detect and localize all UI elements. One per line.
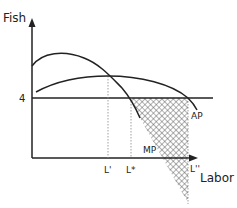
ap-label: AP (191, 111, 203, 121)
x-axis-arrow-icon (189, 155, 198, 162)
l-prime-label: L' (104, 165, 112, 175)
chart-canvas: Fish Labor 4 L' L* L'' MP AP (0, 0, 237, 208)
mp-label: MP (143, 145, 157, 155)
y-axis-label: Fish (3, 11, 26, 25)
l-double-prime-label: L'' (190, 164, 200, 174)
l-star-label: L* (126, 165, 136, 175)
y-axis-arrow-icon (29, 18, 36, 27)
deadweight-shaded-area (131, 98, 188, 203)
x-axis-label: Labor (200, 171, 234, 185)
y-axis (29, 18, 36, 158)
price-level-label: 4 (19, 93, 25, 104)
